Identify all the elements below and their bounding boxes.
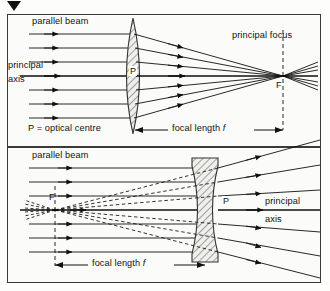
beyond-focus-rays-convex: [283, 62, 318, 90]
refracted-ray-arrows-convex: [168, 44, 185, 109]
focal-length-symbol-concave: f: [143, 258, 146, 268]
incoming-rays-concave: [20, 168, 202, 252]
optics-figure: parallel beam principal axis P P = optic…: [0, 0, 330, 291]
principal-axis-label-concave-line1: principal: [265, 196, 300, 206]
diverging-lens-panel: [20, 140, 320, 278]
focus-marker-concave: F: [49, 192, 55, 202]
optical-centre-marker-convex: P: [129, 66, 137, 76]
principal-axis-label-convex-line1: principal: [8, 60, 43, 70]
principal-focus-label: principal focus: [232, 30, 292, 40]
principal-axis-label-concave-line2: axis: [265, 214, 282, 224]
optical-centre-marker-concave: P: [222, 196, 230, 206]
focal-length-text-concave: focal length: [92, 258, 140, 268]
parallel-beam-label-convex: parallel beam: [32, 16, 88, 26]
incoming-rays-convex: [20, 34, 130, 118]
focal-length-label-convex: focal length f: [172, 123, 226, 133]
focal-length-symbol-convex: f: [223, 123, 226, 133]
refracted-ray-arrows-concave: [246, 156, 263, 263]
principal-axis-label-convex-line2: axis: [8, 74, 25, 84]
focus-marker-convex: F: [276, 80, 282, 90]
refracted-rays-convex: [134, 34, 283, 118]
focal-length-text-convex: focal length: [172, 123, 220, 133]
refracted-rays-concave: [218, 140, 320, 278]
diagram-canvas: [0, 0, 330, 291]
parallel-beam-label-concave: parallel beam: [32, 150, 88, 160]
incoming-ray-arrows-convex: [44, 34, 60, 118]
optical-centre-note: P = optical centre: [28, 123, 101, 133]
focal-length-label-concave: focal length f: [92, 258, 146, 268]
